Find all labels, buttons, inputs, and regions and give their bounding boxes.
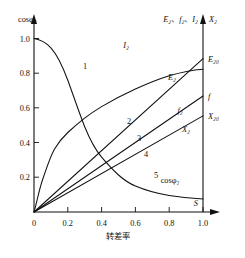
curve-label-f2: f₂	[177, 106, 182, 115]
curve-i2	[34, 69, 203, 212]
y-tick-label-0.6: 0.6	[20, 104, 30, 113]
x-tick-label-0.6: 0.6	[130, 219, 140, 228]
x-tick-label-0.8: 0.8	[164, 219, 174, 228]
y-axis-title: cosφ₂	[18, 15, 37, 24]
secondary-axis-title: E₂、f₂、I₂	[162, 15, 198, 24]
x-tick-label-0: 0	[32, 219, 36, 228]
curve-label-e2: E₂	[167, 73, 176, 82]
y-tick-label-0.8: 0.8	[20, 69, 30, 78]
end-label-e20: E₂₀	[207, 55, 219, 64]
line-e2	[34, 59, 203, 212]
x-axis-title: 转差率	[106, 231, 130, 241]
end-label-x20: X₂₀	[207, 112, 219, 121]
y-tick-label-0.2: 0.2	[20, 173, 30, 182]
curve-label-1: 1	[83, 62, 87, 71]
curve-label-5: 5	[154, 171, 158, 180]
right-axis-title: X₂	[208, 15, 217, 24]
y-tick-label-1.0: 1.0	[20, 35, 30, 44]
chart-figure: 1.0 0.8 0.6 0.4 0.2 0 0.2 0.4 0.6 0.8 1.…	[0, 0, 245, 258]
curve-label-2: 2	[127, 117, 131, 126]
curve-label-x2: X₂	[181, 125, 190, 134]
y-tick-label-0.4: 0.4	[20, 139, 31, 148]
curve-label-4: 4	[144, 150, 149, 159]
end-label-f: f	[208, 92, 212, 101]
y-tick-labels: 1.0 0.8 0.6 0.4 0.2	[20, 35, 31, 183]
curve-label-3: 3	[137, 134, 141, 143]
x-tick-label-0.2: 0.2	[63, 219, 73, 228]
line-x2	[34, 116, 203, 212]
curve-cos-phi2	[34, 39, 203, 200]
x-axis-arrow	[210, 209, 220, 215]
x-tick-label-0.4: 0.4	[96, 219, 107, 228]
y-axis-ticks	[34, 39, 39, 178]
x-axis-end-label: S	[194, 199, 199, 208]
chart-canvas: 1.0 0.8 0.6 0.4 0.2 0 0.2 0.4 0.6 0.8 1.…	[0, 0, 245, 258]
x-tick-label-1.0: 1.0	[198, 219, 208, 228]
curve-end-label-cos-phi2: cosφ₂	[161, 176, 180, 185]
curve-label-i2: I₂	[122, 41, 129, 50]
right-axis-arrow	[200, 14, 206, 24]
x-tick-labels: 0 0.2 0.4 0.6 0.8 1.0	[32, 219, 208, 228]
x-axis-ticks	[68, 207, 203, 212]
